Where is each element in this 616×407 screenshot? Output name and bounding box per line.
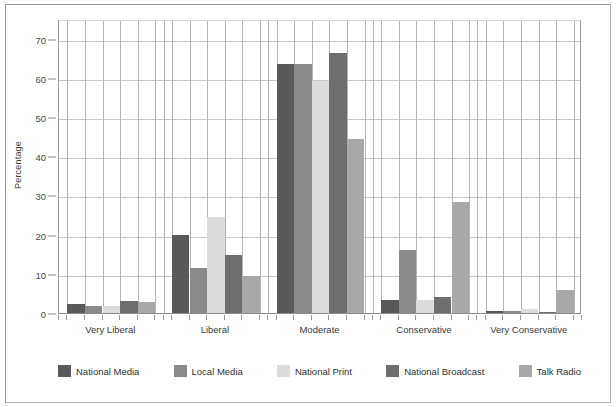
gridline-vertical bbox=[486, 21, 487, 313]
x-axis-tick bbox=[259, 315, 260, 320]
bar bbox=[138, 302, 156, 313]
bar bbox=[294, 64, 312, 313]
y-axis-tick-label: 50 bbox=[18, 113, 46, 124]
y-axis-tick-label: 40 bbox=[18, 152, 46, 163]
x-axis-tick bbox=[485, 315, 486, 320]
bar bbox=[452, 202, 470, 313]
y-axis-title: Percentage bbox=[8, 0, 28, 330]
x-axis-tick bbox=[372, 315, 373, 320]
x-axis-tick bbox=[476, 315, 477, 320]
x-axis-tick bbox=[206, 315, 207, 320]
legend-label: National Print bbox=[295, 366, 352, 377]
gridline-vertical bbox=[469, 21, 470, 313]
gridline-vertical bbox=[365, 21, 366, 313]
y-axis-tick-mark bbox=[48, 274, 56, 275]
bar bbox=[399, 250, 417, 314]
y-axis-tick-mark bbox=[48, 78, 56, 79]
bar bbox=[486, 311, 504, 313]
gridline-vertical bbox=[434, 21, 435, 313]
legend-swatch-icon bbox=[277, 365, 290, 377]
legend-item[interactable]: Local Media bbox=[174, 365, 243, 377]
x-axis-tick bbox=[102, 315, 103, 320]
gridline-vertical bbox=[539, 21, 540, 313]
x-axis-tick bbox=[502, 315, 503, 320]
y-axis-tick-label: 30 bbox=[18, 191, 46, 202]
bar bbox=[103, 306, 121, 313]
x-axis-tick bbox=[311, 315, 312, 320]
x-axis-tick bbox=[241, 315, 242, 320]
gridline-vertical bbox=[138, 21, 139, 313]
gridline-vertical bbox=[503, 21, 504, 313]
gridline-vertical bbox=[556, 21, 557, 313]
x-axis-category-label: Conservative bbox=[396, 324, 451, 335]
gridline-vertical bbox=[477, 21, 478, 313]
bar bbox=[67, 304, 85, 313]
bar bbox=[381, 300, 399, 313]
x-axis-tick bbox=[346, 315, 347, 320]
x-axis-category-label: Very Liberal bbox=[85, 324, 135, 335]
x-axis-tick bbox=[573, 315, 574, 320]
gridline-vertical bbox=[164, 21, 165, 313]
x-axis-tick bbox=[66, 315, 67, 320]
gridline-vertical bbox=[381, 21, 382, 313]
bar bbox=[120, 301, 138, 313]
y-axis-tick-mark bbox=[48, 314, 56, 315]
legend-item[interactable]: Talk Radio bbox=[519, 365, 581, 377]
x-axis-tick bbox=[364, 315, 365, 320]
plot-area bbox=[58, 20, 581, 314]
gridline-vertical bbox=[85, 21, 86, 313]
x-axis-tick bbox=[433, 315, 434, 320]
bar bbox=[312, 81, 330, 313]
y-axis-tick-mark bbox=[48, 235, 56, 236]
x-axis-tick bbox=[84, 315, 85, 320]
legend-label: Local Media bbox=[192, 366, 243, 377]
legend-swatch-icon bbox=[519, 365, 532, 377]
x-axis-tick bbox=[415, 315, 416, 320]
x-axis-tick bbox=[171, 315, 172, 320]
gridline-vertical bbox=[155, 21, 156, 313]
bar bbox=[190, 268, 208, 313]
legend-item[interactable]: National Print bbox=[277, 365, 352, 377]
x-axis-tick bbox=[163, 315, 164, 320]
y-axis-tick-mark bbox=[48, 39, 56, 40]
bar bbox=[347, 139, 365, 313]
bar bbox=[556, 290, 574, 313]
x-axis-tick bbox=[189, 315, 190, 320]
legend-label: Talk Radio bbox=[537, 366, 581, 377]
legend-item[interactable]: National Broadcast bbox=[386, 365, 484, 377]
legend-item[interactable]: National Media bbox=[58, 365, 139, 377]
gridline-vertical bbox=[120, 21, 121, 313]
x-axis-category-label: Liberal bbox=[201, 324, 230, 335]
bar bbox=[521, 309, 539, 313]
x-axis-tick bbox=[137, 315, 138, 320]
legend-label: National Media bbox=[76, 366, 139, 377]
gridline-vertical bbox=[521, 21, 522, 313]
x-axis-tick bbox=[58, 315, 59, 320]
bar bbox=[503, 311, 521, 313]
bar bbox=[242, 276, 260, 313]
chart-figure: Percentage 010203040506070 Very LiberalL… bbox=[0, 0, 616, 407]
x-axis-tick bbox=[119, 315, 120, 320]
y-axis-tick-label: 10 bbox=[18, 269, 46, 280]
legend-swatch-icon bbox=[174, 365, 187, 377]
bar bbox=[225, 255, 243, 313]
bar bbox=[539, 312, 557, 313]
x-axis-tick bbox=[538, 315, 539, 320]
bar bbox=[434, 297, 452, 313]
bar bbox=[329, 53, 347, 313]
y-axis-tick-mark bbox=[48, 118, 56, 119]
x-axis-tick bbox=[581, 315, 582, 320]
gridline-vertical bbox=[574, 21, 575, 313]
x-axis-category-label: Very Conservative bbox=[490, 324, 567, 335]
gridline-vertical bbox=[268, 21, 269, 313]
y-axis-tick-label: 0 bbox=[18, 309, 46, 320]
gridline-vertical bbox=[103, 21, 104, 313]
y-axis-tick-mark bbox=[48, 157, 56, 158]
x-axis-tick bbox=[154, 315, 155, 320]
bar bbox=[207, 217, 225, 313]
bar bbox=[277, 64, 295, 313]
legend-label: National Broadcast bbox=[404, 366, 484, 377]
x-axis-tick bbox=[328, 315, 329, 320]
y-axis-tick-label: 70 bbox=[18, 34, 46, 45]
bar bbox=[172, 235, 190, 313]
